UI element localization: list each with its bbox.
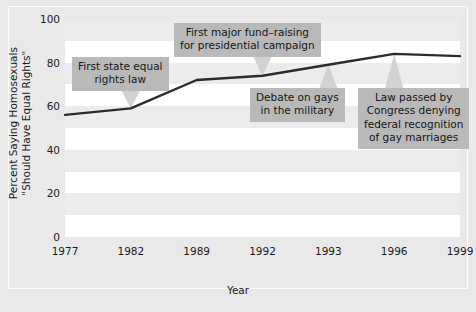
annotation-leader-law-passed-by-congress xyxy=(385,54,403,88)
annotation-line: First major fund–raising xyxy=(180,26,315,39)
annotation-callout-first-state-equal-rights-law: First state equalrights law xyxy=(72,57,169,91)
annotation-line: Law passed by xyxy=(364,91,463,104)
annotation-callout-law-passed-by-congress: Law passed byCongress denyingfederal rec… xyxy=(358,88,469,149)
chart-figure: 020406080100 Percent Saying Homosexuals … xyxy=(0,0,476,312)
annotation-line: First state equal xyxy=(78,60,163,73)
annotation-line: Debate on gays xyxy=(256,91,339,104)
annotation-line: Congress denying xyxy=(364,104,463,117)
annotation-line: rights law xyxy=(78,73,163,86)
annotation-callout-debate-on-gays-in-the-military: Debate on gaysin the military xyxy=(250,88,345,122)
annotation-leader-debate-on-gays-in-the-military xyxy=(319,65,337,88)
annotation-line: in the military xyxy=(256,104,339,117)
annotation-line: for presidential campaign xyxy=(180,39,315,52)
annotation-callout-first-major-fund-raising: First major fund–raisingfor presidential… xyxy=(174,23,321,57)
annotation-line: federal recognition xyxy=(364,118,463,131)
annotation-line: of gay marriages xyxy=(364,131,463,144)
annotation-leader-first-major-fund-raising xyxy=(254,57,272,76)
